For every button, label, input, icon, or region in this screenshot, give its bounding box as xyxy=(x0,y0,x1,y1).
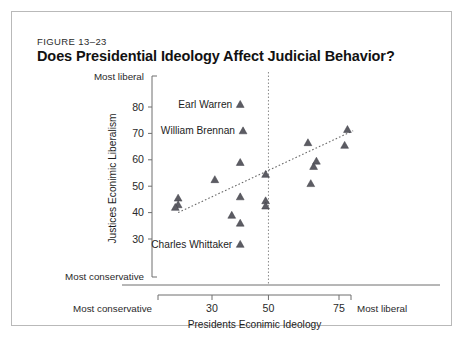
y-tick-label-30: 30 xyxy=(132,233,144,245)
y-tick-label-60: 60 xyxy=(132,153,144,165)
x-tick-label-50: 50 xyxy=(263,302,275,314)
data-point xyxy=(313,157,321,164)
x-axis-title: Presidents Econimic Ideology xyxy=(188,319,323,330)
data-point-charles-whittaker xyxy=(236,240,244,247)
data-points xyxy=(171,100,351,247)
data-point xyxy=(304,139,312,146)
y-axis-low-label: Most conservative xyxy=(65,271,145,282)
data-point xyxy=(228,211,236,218)
point-label-charles-whittaker: Charles Whittaker xyxy=(151,239,233,250)
point-labels: Earl WarrenWilliam BrennanCharles Whitta… xyxy=(151,99,235,250)
data-point xyxy=(174,194,182,201)
y-axis-title: Justices Econimic Liberalism xyxy=(107,113,118,243)
x-axis-bracket xyxy=(158,295,351,300)
y-tick-label-50: 50 xyxy=(132,180,144,192)
x-axis-high-label: Most liberal xyxy=(357,303,407,314)
data-point xyxy=(236,193,244,200)
scatter-plot: 304050607080Most liberalMost conservativ… xyxy=(0,0,465,351)
x-axis-low-label: Most conservative xyxy=(73,303,153,314)
data-point-william-brennan xyxy=(239,127,247,134)
point-label-william-brennan: William Brennan xyxy=(161,125,235,136)
x-tick-label-30: 30 xyxy=(206,302,218,314)
y-axis-high-label: Most liberal xyxy=(94,71,144,82)
x-axis: 305075Most conservativeMost liberal xyxy=(73,285,440,314)
axis-titles: Justices Econimic LiberalismPresidents E… xyxy=(107,113,322,330)
data-point xyxy=(211,176,219,183)
data-point-earl-warren xyxy=(236,100,244,107)
data-point xyxy=(344,126,352,133)
x-tick-label-75: 75 xyxy=(333,302,345,314)
data-point xyxy=(236,159,244,166)
data-point xyxy=(307,180,315,187)
data-point xyxy=(341,141,349,148)
y-tick-label-40: 40 xyxy=(132,206,144,218)
y-tick-label-80: 80 xyxy=(132,101,144,113)
data-point xyxy=(236,219,244,226)
y-tick-label-70: 70 xyxy=(132,127,144,139)
point-label-earl-warren: Earl Warren xyxy=(178,99,232,110)
plot-svg: 304050607080Most liberalMost conservativ… xyxy=(0,0,465,351)
